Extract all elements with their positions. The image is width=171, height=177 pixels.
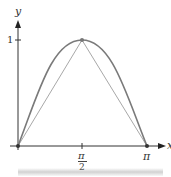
x-axis-label: x	[167, 140, 171, 151]
bottom-shadow	[18, 168, 163, 176]
y-axis-arrow-icon	[15, 20, 21, 28]
point-origin	[16, 144, 20, 148]
point-pi	[145, 144, 149, 148]
y-axis-label: y	[15, 6, 21, 17]
y-tick-label-1: 1	[7, 35, 13, 45]
sine-curve	[18, 40, 147, 146]
point-peak	[80, 38, 84, 42]
x-tick-label-pi-half-num: π	[78, 151, 85, 161]
x-axis-arrow-icon	[158, 143, 166, 149]
x-tick-label-pi: π	[143, 151, 150, 162]
